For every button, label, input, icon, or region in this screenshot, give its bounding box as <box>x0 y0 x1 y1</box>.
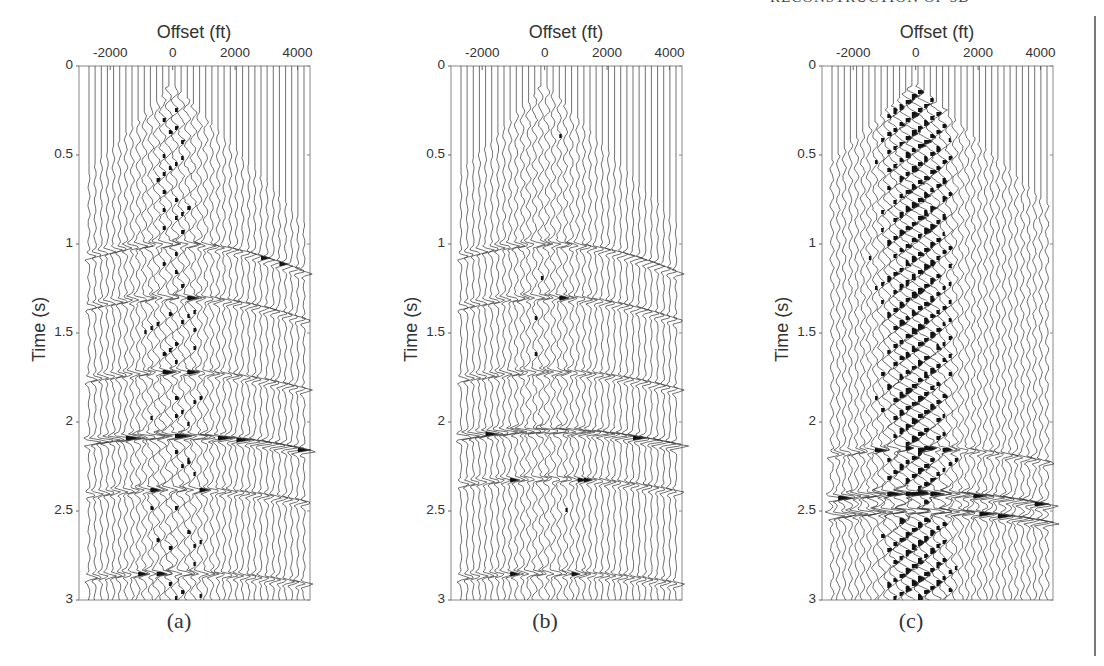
seismic-trace <box>536 66 551 600</box>
seismic-trace <box>651 66 670 600</box>
y-tick-label: 3 <box>405 591 445 606</box>
y-tick-label: 2.5 <box>33 502 73 517</box>
seismic-trace <box>493 66 508 600</box>
y-tick-label: 1 <box>33 235 73 250</box>
x-tick-label: 4000 <box>282 45 312 60</box>
seismic-trace <box>666 66 681 600</box>
seismic-trace <box>462 66 480 600</box>
seismic-trace <box>933 66 952 600</box>
seismic-trace <box>243 66 260 600</box>
y-tick-label: 2 <box>33 413 73 428</box>
seismic-trace <box>639 66 658 600</box>
seismic-trace <box>84 66 101 600</box>
seismic-trace <box>858 66 877 600</box>
page-margin-rule <box>1094 16 1096 656</box>
trace-fill <box>510 478 520 576</box>
seismic-trace <box>262 66 280 600</box>
seismic-trace <box>487 66 504 600</box>
seismic-trace <box>457 66 472 600</box>
x-tick-label: -2000 <box>465 45 500 60</box>
seismic-trace <box>578 66 595 600</box>
seismic-trace <box>193 66 212 600</box>
trace-fill <box>169 130 173 586</box>
seismic-trace <box>89 66 108 600</box>
seismic-trace <box>591 66 608 600</box>
y-tick-label: 0.5 <box>405 146 445 161</box>
panel-caption: (b) <box>532 608 558 634</box>
seismic-trace <box>1016 66 1035 600</box>
trace-fill <box>181 140 185 594</box>
seismic-trace <box>584 66 601 600</box>
seismic-trace <box>280 66 297 600</box>
y-tick-label: 1.5 <box>405 324 445 339</box>
figure-panel-c: Offset (ft) Time (s) (c) -20000200040000… <box>743 0 1073 666</box>
y-tick-label: 1 <box>776 235 816 250</box>
x-tick-label: 0 <box>541 45 549 60</box>
seismic-trace <box>954 66 975 600</box>
seismic-trace <box>844 66 862 600</box>
x-tick-label: 4000 <box>1025 45 1055 60</box>
seismic-trace <box>101 66 121 600</box>
y-tick-label: 3 <box>776 591 816 606</box>
seismic-trace <box>623 66 637 600</box>
seismic-trace <box>839 66 857 600</box>
seismic-trace <box>560 66 576 600</box>
figure-panel-b: Offset (ft) Time (s) (b) -20000200040000… <box>372 0 702 666</box>
seismic-trace <box>475 66 491 600</box>
seismic-trace <box>114 66 131 600</box>
seismic-trace <box>647 66 662 600</box>
seismic-trace <box>218 66 235 600</box>
y-tick-label: 2 <box>405 413 445 428</box>
seismic-trace <box>571 66 591 600</box>
y-tick-label: 2.5 <box>405 502 445 517</box>
seismic-trace <box>634 66 649 600</box>
seismic-trace <box>108 66 124 600</box>
seismic-trace <box>224 66 241 600</box>
x-tick-label: -2000 <box>93 45 128 60</box>
y-tick-label: 2.5 <box>776 502 816 517</box>
seismic-trace <box>872 66 893 600</box>
trace-fill <box>157 178 168 576</box>
y-tick-label: 0 <box>405 57 445 72</box>
y-tick-label: 1.5 <box>776 324 816 339</box>
x-tick-label: 0 <box>169 45 177 60</box>
seismic-trace <box>174 66 193 600</box>
panel-caption: (a) <box>167 608 191 634</box>
y-tick-label: 1 <box>405 235 445 250</box>
x-tick-label: 4000 <box>654 45 684 60</box>
y-tick-label: 0.5 <box>33 146 73 161</box>
seismic-trace <box>138 66 155 600</box>
seismic-trace <box>468 66 486 600</box>
seismic-trace <box>126 66 145 600</box>
seismic-trace <box>985 66 1005 600</box>
seismic-trace <box>256 66 272 600</box>
seismic-trace <box>299 66 316 600</box>
seismic-trace <box>603 66 620 600</box>
seismic-trace <box>269 66 285 600</box>
seismic-trace <box>825 66 845 600</box>
seismic-trace <box>658 66 676 600</box>
seismic-trace <box>523 66 541 600</box>
seismic-trace <box>274 66 293 600</box>
y-tick-label: 2 <box>776 413 816 428</box>
y-tick-label: 1.5 <box>33 324 73 339</box>
panel-caption: (c) <box>899 608 923 634</box>
seismic-trace <box>97 66 113 600</box>
seismic-trace <box>615 66 634 600</box>
seismic-trace <box>1012 66 1031 600</box>
x-tick-label: 2000 <box>963 45 993 60</box>
x-tick-label: -2000 <box>836 45 871 60</box>
figure-panel-a: Offset (ft) Time (s) (a) -20000200040000… <box>0 0 330 666</box>
y-tick-label: 3 <box>33 591 73 606</box>
trace-fill <box>949 138 953 592</box>
y-tick-label: 0.5 <box>776 146 816 161</box>
seismic-trace <box>596 66 615 600</box>
seismic-trace <box>628 66 647 600</box>
seismic-trace <box>479 66 498 600</box>
x-tick-label: 2000 <box>220 45 250 60</box>
seismic-trace <box>287 66 304 600</box>
seismic-trace <box>610 66 627 600</box>
x-tick-label: 2000 <box>592 45 622 60</box>
seismic-trace <box>503 66 523 600</box>
y-tick-label: 0 <box>33 57 73 72</box>
